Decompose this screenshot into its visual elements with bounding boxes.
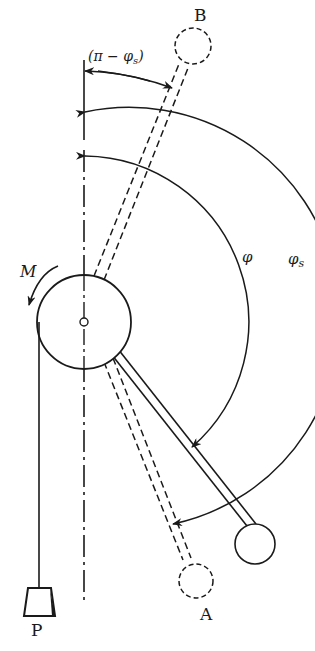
rod-A-dashed bbox=[104, 358, 191, 560]
label-A: A bbox=[199, 604, 213, 624]
label-B: B bbox=[194, 5, 207, 25]
label-M: M bbox=[19, 262, 37, 281]
label-complement: (π − φs) bbox=[88, 48, 144, 66]
bob-A-dashed bbox=[179, 564, 213, 598]
pivot-hole bbox=[80, 318, 88, 326]
bob-current bbox=[235, 524, 275, 564]
label-phi: φ bbox=[242, 248, 253, 266]
label-phi-s: φs bbox=[288, 250, 305, 270]
bob-B-dashed bbox=[175, 28, 211, 64]
pendulum-diagram: B A P M (π − φs) φ φs bbox=[0, 0, 315, 651]
label-P: P bbox=[31, 620, 42, 640]
arc-complement bbox=[98, 71, 172, 88]
rod-B-dashed bbox=[94, 64, 188, 280]
